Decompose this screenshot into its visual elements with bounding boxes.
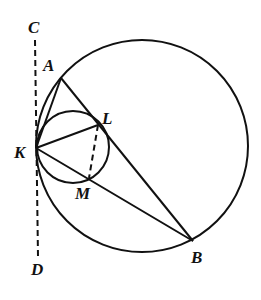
segment-KL: [36, 125, 98, 148]
geometry-diagram: A B C D K L M: [0, 0, 261, 300]
small-circle: [37, 111, 109, 183]
segment-LM: [89, 125, 98, 178]
label-point-k: K: [13, 143, 27, 162]
segment-KB: [36, 148, 193, 241]
circles-group: [36, 40, 248, 252]
label-point-b: B: [190, 248, 202, 267]
labels-group: A B C D K L M: [13, 18, 202, 279]
label-point-c: C: [28, 18, 40, 37]
label-point-a: A: [42, 56, 54, 75]
label-point-l: L: [101, 109, 112, 128]
label-point-d: D: [30, 260, 43, 279]
segment-KA: [36, 78, 61, 148]
large-circle: [36, 40, 248, 252]
segments-group: [35, 40, 193, 257]
segment-AB: [61, 78, 193, 241]
label-point-m: M: [74, 184, 91, 203]
